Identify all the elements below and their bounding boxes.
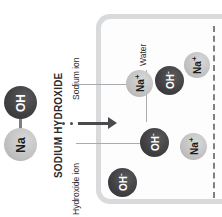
molecule-hydroxide-symbol: OH — [15, 94, 27, 112]
ion-hydroxide: OH- — [108, 168, 137, 197]
diagram-canvas: Water Sodium ion Hydroxide ion OH Na SOD… — [0, 0, 222, 217]
ion-symbol: Na+ — [133, 75, 145, 92]
ion-symbol: Na+ — [187, 138, 199, 155]
reaction-arrow-head — [108, 117, 117, 129]
hydroxide-ion-leader-line — [76, 143, 140, 144]
molecule-sodium-atom: Na — [4, 128, 37, 161]
sodium-ion-label: Sodium ion — [71, 57, 81, 100]
ion-sodium: Na+ — [184, 52, 210, 78]
ion-symbol: OH- — [163, 72, 175, 90]
molecule-sodium-symbol: Na — [15, 137, 27, 152]
hydroxide-ion-label: Hydroxide ion — [71, 163, 81, 215]
arrow-dot-1 — [62, 122, 65, 125]
ion-sodium: Na+ — [180, 133, 207, 160]
ion-symbol: OH- — [148, 134, 160, 152]
reaction-arrow-shaft — [78, 122, 109, 125]
ion-sodium: Na+ — [126, 70, 153, 97]
ion-hydroxide: OH- — [140, 128, 169, 157]
ion-symbol: Na+ — [191, 56, 203, 73]
ion-hydroxide: OH- — [155, 66, 184, 95]
sodium-ion-leader-line — [76, 84, 126, 85]
arrow-dot-2 — [70, 122, 73, 125]
water-label: Water — [138, 44, 148, 66]
ion-symbol: OH- — [116, 174, 128, 192]
molecule-hydroxide-atom: OH — [4, 86, 37, 119]
container-dashed-edge — [213, 26, 215, 198]
sodium-hydroxide-label: SODIUM HYDROXIDE — [53, 73, 64, 178]
